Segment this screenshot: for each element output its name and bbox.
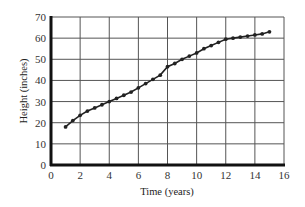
data-point xyxy=(100,103,104,107)
data-point xyxy=(166,65,170,69)
data-point xyxy=(136,86,140,90)
data-point xyxy=(202,47,206,51)
x-tick-label: 2 xyxy=(77,169,83,181)
x-tick-label: 12 xyxy=(220,169,231,181)
x-axis-title: Time (years) xyxy=(140,186,194,198)
data-point xyxy=(93,106,97,110)
y-tick-label: 0 xyxy=(41,159,47,171)
data-point xyxy=(151,77,155,81)
y-axis-title: Height (inches) xyxy=(18,58,30,124)
data-point xyxy=(187,54,191,58)
data-point xyxy=(217,40,221,44)
data-point xyxy=(71,119,75,123)
data-point xyxy=(129,90,133,94)
y-tick-label: 40 xyxy=(35,74,47,86)
data-point xyxy=(78,113,82,117)
y-tick-label: 30 xyxy=(35,96,47,108)
data-point xyxy=(86,109,90,113)
y-tick-label: 20 xyxy=(35,117,47,129)
data-point xyxy=(209,44,213,48)
data-point xyxy=(268,30,272,34)
data-point xyxy=(253,33,257,37)
data-point xyxy=(238,35,242,39)
y-tick-label: 70 xyxy=(35,11,47,23)
data-point xyxy=(224,37,228,41)
data-point xyxy=(173,62,177,66)
data-point xyxy=(180,57,184,61)
y-tick-label: 60 xyxy=(35,32,47,44)
data-point xyxy=(64,125,68,129)
y-tick-label: 50 xyxy=(35,53,47,65)
x-tick-label: 4 xyxy=(107,169,113,181)
x-tick-label: 8 xyxy=(165,169,171,181)
x-tick-label: 14 xyxy=(249,169,261,181)
data-point xyxy=(107,100,111,104)
data-point xyxy=(122,93,126,97)
data-point xyxy=(231,36,235,40)
data-point xyxy=(158,73,162,77)
grid-lines xyxy=(51,17,284,165)
x-tick-label: 6 xyxy=(136,169,142,181)
x-tick-label: 10 xyxy=(191,169,203,181)
x-tick-label: 16 xyxy=(279,169,291,181)
x-tick-labels: 0246810121416 xyxy=(48,169,290,181)
line-chart: 0246810121416 010203040506070 Time (year… xyxy=(0,0,305,207)
data-point xyxy=(195,51,199,55)
x-tick-label: 0 xyxy=(48,169,54,181)
data-point xyxy=(246,34,250,38)
data-point xyxy=(144,82,148,86)
data-point xyxy=(115,97,119,101)
y-tick-labels: 010203040506070 xyxy=(35,11,47,171)
y-tick-label: 10 xyxy=(35,138,47,150)
data-point xyxy=(260,32,264,36)
